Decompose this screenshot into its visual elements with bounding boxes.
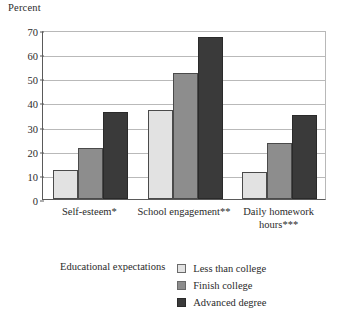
bar-series-group (43, 32, 325, 199)
bar (173, 73, 198, 199)
x-axis-category-label: School engagement** (137, 206, 232, 219)
y-axis-tick-label: 30 (28, 123, 39, 134)
bar (103, 112, 128, 199)
y-axis-tick-label: 20 (28, 147, 39, 158)
legend-item: Less than college (177, 260, 266, 277)
y-axis-tick-label: 70 (28, 27, 39, 38)
bar (198, 37, 223, 199)
y-axis-title: Percent (8, 2, 41, 13)
legend-label: Advanced degree (193, 297, 266, 308)
bar (242, 172, 267, 199)
legend-swatch (177, 298, 186, 307)
bar-chart-figure: Percent 010203040506070 Self-esteem*Scho… (0, 0, 340, 328)
legend-item: Finish college (177, 277, 266, 294)
bar (267, 143, 292, 199)
legend-label: Less than college (193, 263, 266, 274)
bar (148, 110, 173, 199)
legend-items: Less than collegeFinish collegeAdvanced … (177, 260, 266, 311)
legend: Educational expectations Less than colle… (60, 260, 266, 311)
y-axis-tick-mark (40, 201, 44, 202)
y-axis-tick-label: 0 (33, 196, 38, 207)
x-axis-category-label: Daily homeworkhours*** (231, 206, 326, 231)
legend-swatch (177, 264, 186, 273)
y-axis-tick-label: 60 (28, 51, 39, 62)
category-label-line: hours*** (231, 219, 326, 232)
plot-area: 010203040506070 (42, 31, 326, 200)
y-axis-tick-label: 50 (28, 75, 39, 86)
category-label-line: Daily homework (231, 206, 326, 219)
bar (53, 170, 78, 199)
bar (78, 148, 103, 199)
y-axis-tick-label: 10 (28, 171, 39, 182)
bar (292, 115, 317, 200)
category-label-line: School engagement** (137, 206, 232, 219)
legend-item: Advanced degree (177, 294, 266, 311)
category-label-line: Self-esteem* (42, 206, 137, 219)
legend-label: Finish college (193, 280, 252, 291)
legend-swatch (177, 281, 186, 290)
x-axis-category-label: Self-esteem* (42, 206, 137, 219)
legend-title: Educational expectations (60, 260, 165, 272)
y-axis-tick-label: 40 (28, 99, 39, 110)
